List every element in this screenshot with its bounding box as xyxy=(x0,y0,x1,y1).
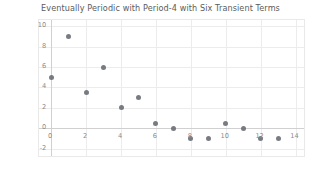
data-point xyxy=(136,95,141,100)
gridline-horizontal--2 xyxy=(39,149,304,150)
gridline-horizontal-10 xyxy=(39,26,304,27)
data-point xyxy=(171,126,176,131)
gridline-horizontal-6 xyxy=(39,67,304,68)
gridline-horizontal-8 xyxy=(39,47,304,48)
data-point xyxy=(241,126,246,131)
data-point xyxy=(66,34,71,39)
data-point xyxy=(153,121,158,126)
gridline-horizontal-4 xyxy=(39,87,304,88)
data-point xyxy=(276,136,281,141)
data-point xyxy=(188,136,193,141)
data-point xyxy=(84,90,89,95)
data-point xyxy=(119,105,124,110)
y-axis-spine xyxy=(51,20,52,156)
data-point xyxy=(101,65,106,70)
data-point xyxy=(49,75,54,80)
plot-area xyxy=(38,19,305,157)
gridline-horizontal-2 xyxy=(39,108,304,109)
data-point xyxy=(258,136,263,141)
data-point xyxy=(206,136,211,141)
chart-figure: Eventually Periodic with Period-4 with S… xyxy=(0,0,321,178)
data-point xyxy=(223,121,228,126)
chart-title: Eventually Periodic with Period-4 with S… xyxy=(0,3,321,13)
